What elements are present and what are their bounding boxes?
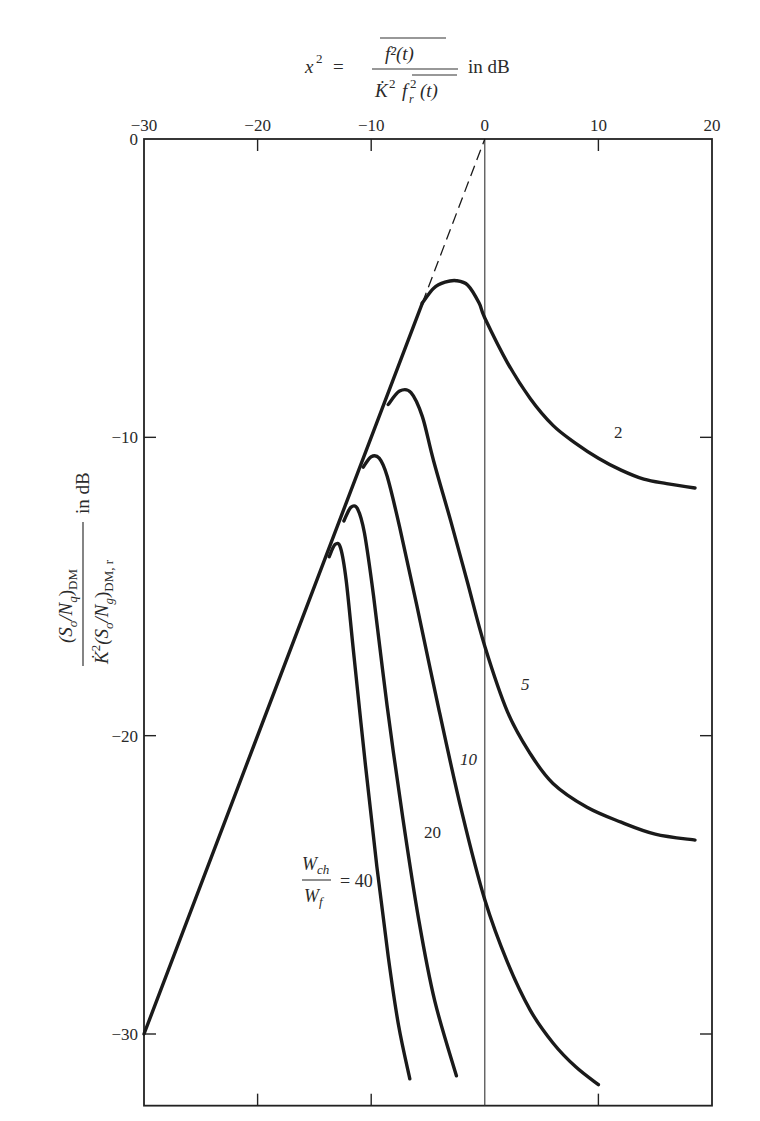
param-equals-40: = 40 (340, 871, 373, 891)
asymptote-dashed (422, 139, 484, 303)
y-tick-label: −20 (111, 727, 138, 746)
curve-10 (363, 456, 598, 1085)
param-wf: Wf (304, 886, 325, 909)
x-axis-title: x 2 = f²(t) K̇ 2 f 2 r (t) in dB (304, 38, 510, 106)
curve-40 (329, 543, 410, 1078)
parameter-label-40: Wch Wf = 40 (302, 854, 373, 909)
x-axis-denominator-f-sub: r (409, 92, 414, 106)
x-tick-label: −10 (358, 116, 385, 135)
curve-2 (422, 281, 695, 488)
y-tick-label: −10 (111, 428, 138, 447)
x-axis-denominator-k-exp: 2 (389, 76, 396, 91)
chart-figure: x 2 = f²(t) K̇ 2 f 2 r (t) in dB (So/Nq)… (0, 0, 760, 1121)
x-axis-denominator-t: (t) (420, 80, 438, 102)
chart-canvas: x 2 = f²(t) K̇ 2 f 2 r (t) in dB (So/Nq)… (0, 0, 760, 1121)
y-tick-label: 0 (130, 130, 139, 149)
asymptote-solid (144, 303, 422, 1034)
curve-20 (344, 506, 457, 1076)
curve-5 (388, 390, 695, 841)
plot-frame (144, 139, 712, 1106)
x-axis-denominator-f-exp: 2 (410, 76, 417, 91)
y-tick-label: −30 (111, 1025, 138, 1044)
x-tick-label: 10 (590, 116, 607, 135)
x-axis-title-equals: = (333, 56, 344, 77)
curves (144, 139, 695, 1085)
curve-label-20: 20 (424, 823, 441, 842)
x-axis-title-x-exp: 2 (316, 51, 323, 66)
param-wch: Wch (302, 854, 329, 877)
curve-label-2: 2 (614, 423, 623, 442)
axis-ticks: −30−20−10010200−10−20−30 (111, 116, 720, 1106)
x-tick-label: 20 (704, 116, 721, 135)
x-tick-label: −20 (244, 116, 271, 135)
y-axis-units: in dB (72, 472, 93, 514)
x-tick-label: 0 (481, 116, 490, 135)
x-axis-units: in dB (468, 56, 510, 77)
x-axis-numerator: f²(t) (385, 43, 414, 65)
x-axis-denominator-k: K̇ (374, 80, 389, 101)
curve-label-5: 5 (521, 675, 530, 694)
y-axis-numerator: (So/Nq)DM (55, 569, 80, 643)
y-axis-title: (So/Nq)DM K̇2(So/Ng)DM, r in dB (55, 472, 116, 666)
curve-label-10: 10 (460, 750, 478, 769)
x-axis-title-x: x (304, 56, 314, 77)
y-axis-denominator: K̇2(So/Ng)DM, r (88, 559, 116, 665)
plot-area (144, 139, 712, 1106)
